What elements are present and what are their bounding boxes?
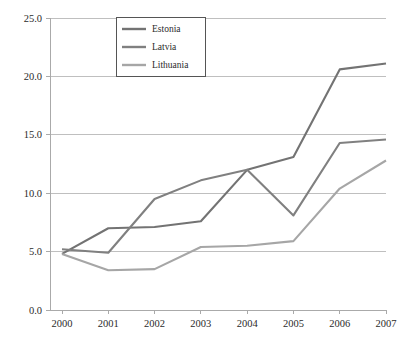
y-tick-label-25.0: 25.0 [24,13,42,24]
x-tick-label-2005: 2005 [283,318,304,329]
x-tick-label-2001: 2001 [98,318,119,329]
x-tick-label-2004: 2004 [237,318,259,329]
x-tick-label-2003: 2003 [190,318,211,329]
x-tick-label-2000: 2000 [52,318,73,329]
y-tick-label-15.0: 15.0 [24,129,42,140]
y-tick-label-20.0: 20.0 [24,71,42,82]
y-tick-label-0.0: 0.0 [29,305,42,316]
x-tick-label-2007: 2007 [376,318,397,329]
legend-label-latvia: Latvia [152,42,177,52]
legend-label-lithuania: Lithuania [152,60,189,70]
chart-canvas: 0.05.010.015.020.025.0 20002001200220032… [0,0,398,349]
chart-legend: EstoniaLatviaLithuania [116,17,205,76]
legend-label-estonia: Estonia [152,24,181,34]
y-tick-label-5.0: 5.0 [29,246,42,257]
y-tick-label-10.0: 10.0 [24,188,42,199]
line-chart: 0.05.010.015.020.025.0 20002001200220032… [0,0,398,349]
x-tick-label-2002: 2002 [144,318,165,329]
x-tick-label-2006: 2006 [329,318,350,329]
